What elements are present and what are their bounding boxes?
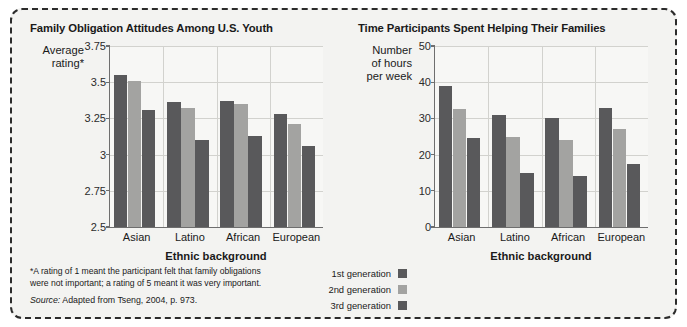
gridline-vertical bbox=[270, 46, 271, 227]
x-tick-label-latino: Latino bbox=[500, 231, 530, 243]
x-tick-label-african: African bbox=[226, 231, 260, 243]
y-axis-title-left-line2: rating* bbox=[52, 57, 84, 69]
x-tick-label-asian: Asian bbox=[123, 231, 151, 243]
chart-legend: 1st generation2nd generation3rd generati… bbox=[262, 266, 407, 314]
bar-african-2nd-generation bbox=[559, 140, 573, 227]
gridline-vertical bbox=[163, 46, 164, 227]
gridline-vertical bbox=[488, 46, 489, 227]
bar-asian-2nd-generation bbox=[128, 81, 142, 227]
chart-title-right: Time Participants Spent Helping Their Fa… bbox=[358, 22, 606, 34]
y-tick-label: 3.75 bbox=[85, 40, 106, 52]
bar-latino-1st-generation bbox=[167, 102, 181, 227]
y-tick-mark bbox=[106, 82, 110, 83]
y-axis-title-right-line2: of hours bbox=[372, 57, 412, 69]
legend-label: 1st generation bbox=[332, 268, 391, 279]
bar-european-1st-generation bbox=[274, 114, 288, 227]
bar-asian-3rd-generation bbox=[142, 110, 156, 227]
x-tick-label-asian: Asian bbox=[448, 231, 476, 243]
y-tick-mark bbox=[431, 45, 435, 46]
footnote-line-2: were not important; a rating of 5 meant … bbox=[30, 278, 261, 288]
y-tick-label: 20 bbox=[419, 149, 431, 161]
bar-latino-1st-generation bbox=[492, 115, 506, 227]
y-tick-label: 50 bbox=[419, 40, 431, 52]
y-tick-label: 2.75 bbox=[85, 185, 106, 197]
y-tick-label: 3.5 bbox=[91, 76, 106, 88]
y-tick-label: 2.5 bbox=[91, 221, 106, 233]
bar-asian-2nd-generation bbox=[453, 109, 467, 227]
legend-item-2: 2nd generation bbox=[262, 282, 407, 296]
legend-item-3: 3rd generation bbox=[262, 298, 407, 312]
x-tick-label-latino: Latino bbox=[175, 231, 205, 243]
legend-item-1: 1st generation bbox=[262, 266, 407, 280]
source-prefix: Source: bbox=[30, 295, 60, 305]
bar-latino-2nd-generation bbox=[181, 108, 195, 227]
figure-frame: Family Obligation Attitudes Among U.S. Y… bbox=[10, 8, 677, 319]
gridline-vertical bbox=[217, 46, 218, 227]
gridline-vertical bbox=[595, 46, 596, 227]
y-tick-label: 40 bbox=[419, 76, 431, 88]
footnote-line-1: *A rating of 1 meant the participant fel… bbox=[30, 266, 261, 276]
y-tick-mark bbox=[431, 118, 435, 119]
y-tick-mark bbox=[106, 45, 110, 46]
y-tick-mark bbox=[431, 154, 435, 155]
bar-asian-3rd-generation bbox=[467, 138, 481, 227]
bar-latino-3rd-generation bbox=[195, 140, 209, 227]
bar-african-2nd-generation bbox=[234, 104, 248, 227]
y-axis-title-right-line3: per week bbox=[367, 70, 412, 82]
chart-panel-left: Family Obligation Attitudes Among U.S. Y… bbox=[24, 18, 334, 258]
y-tick-mark bbox=[106, 190, 110, 191]
bar-asian-1st-generation bbox=[439, 86, 453, 227]
x-tick-label-european: European bbox=[598, 231, 646, 243]
x-tick-label-european: European bbox=[273, 231, 321, 243]
plot-area-left: 3.753.53.2532.752.5AsianLatinoAfricanEur… bbox=[109, 46, 323, 228]
legend-label: 3rd generation bbox=[331, 300, 391, 311]
bar-european-3rd-generation bbox=[302, 146, 316, 227]
legend-label: 2nd generation bbox=[328, 284, 391, 295]
plot-area-right: 50403020100AsianLatinoAfricanEuropean bbox=[434, 46, 648, 228]
x-axis-title-left: Ethnic background bbox=[109, 250, 323, 262]
y-tick-mark bbox=[106, 154, 110, 155]
y-tick-mark bbox=[431, 82, 435, 83]
bar-european-1st-generation bbox=[599, 108, 613, 227]
y-axis-title-right: Number of hours per week bbox=[346, 44, 412, 84]
y-tick-mark bbox=[106, 118, 110, 119]
y-tick-mark bbox=[431, 190, 435, 191]
y-tick-mark bbox=[431, 226, 435, 227]
y-axis-title-right-line1: Number bbox=[372, 44, 412, 56]
x-tick-label-african: African bbox=[551, 231, 585, 243]
bar-african-3rd-generation bbox=[248, 136, 262, 227]
footnote: *A rating of 1 meant the participant fel… bbox=[30, 266, 261, 289]
bar-european-2nd-generation bbox=[288, 124, 302, 227]
bar-latino-3rd-generation bbox=[520, 173, 534, 227]
bar-european-2nd-generation bbox=[613, 129, 627, 227]
legend-swatch bbox=[398, 269, 407, 278]
bar-european-3rd-generation bbox=[627, 164, 641, 227]
chart-panel-right: Time Participants Spent Helping Their Fa… bbox=[352, 18, 670, 258]
y-tick-label: 10 bbox=[419, 185, 431, 197]
y-tick-label: 3 bbox=[100, 149, 106, 161]
bar-african-1st-generation bbox=[220, 101, 234, 227]
legend-swatch bbox=[398, 301, 407, 310]
y-tick-mark bbox=[106, 226, 110, 227]
legend-swatch bbox=[398, 285, 407, 294]
y-tick-label: 3.25 bbox=[85, 112, 106, 124]
bar-african-1st-generation bbox=[545, 118, 559, 227]
bar-latino-2nd-generation bbox=[506, 137, 520, 228]
bar-asian-1st-generation bbox=[114, 75, 128, 227]
y-tick-label: 0 bbox=[425, 221, 431, 233]
y-tick-label: 30 bbox=[419, 112, 431, 124]
gridline-vertical bbox=[542, 46, 543, 227]
y-axis-title-left-line1: Average bbox=[43, 44, 84, 56]
x-axis-title-right: Ethnic background bbox=[434, 250, 648, 262]
y-axis-title-left: Average rating* bbox=[20, 44, 84, 70]
bar-african-3rd-generation bbox=[573, 176, 587, 227]
source-line: Source: Adapted from Tseng, 2004, p. 973… bbox=[30, 295, 197, 305]
source-text: Adapted from Tseng, 2004, p. 973. bbox=[60, 295, 197, 305]
chart-title-left: Family Obligation Attitudes Among U.S. Y… bbox=[30, 22, 273, 34]
